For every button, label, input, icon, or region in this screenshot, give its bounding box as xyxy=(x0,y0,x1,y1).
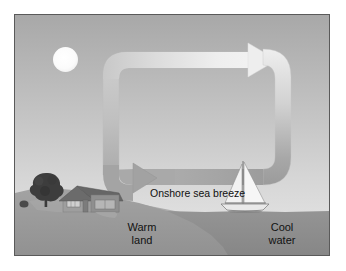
label-cool-water: Cool water xyxy=(251,221,313,246)
loop-right-segment xyxy=(263,49,291,185)
label-warm-land: Warm land xyxy=(111,221,173,246)
diagram-scene xyxy=(15,15,330,256)
diagram-figure: Onshore sea breeze Warm land Cool water xyxy=(14,14,330,256)
loop-top-segment xyxy=(103,52,255,79)
label-onshore-sea-breeze: Onshore sea breeze xyxy=(150,187,245,199)
circulation-arrow-loop xyxy=(103,43,291,201)
bush-icon xyxy=(20,201,29,208)
loop-left-segment xyxy=(103,52,255,175)
